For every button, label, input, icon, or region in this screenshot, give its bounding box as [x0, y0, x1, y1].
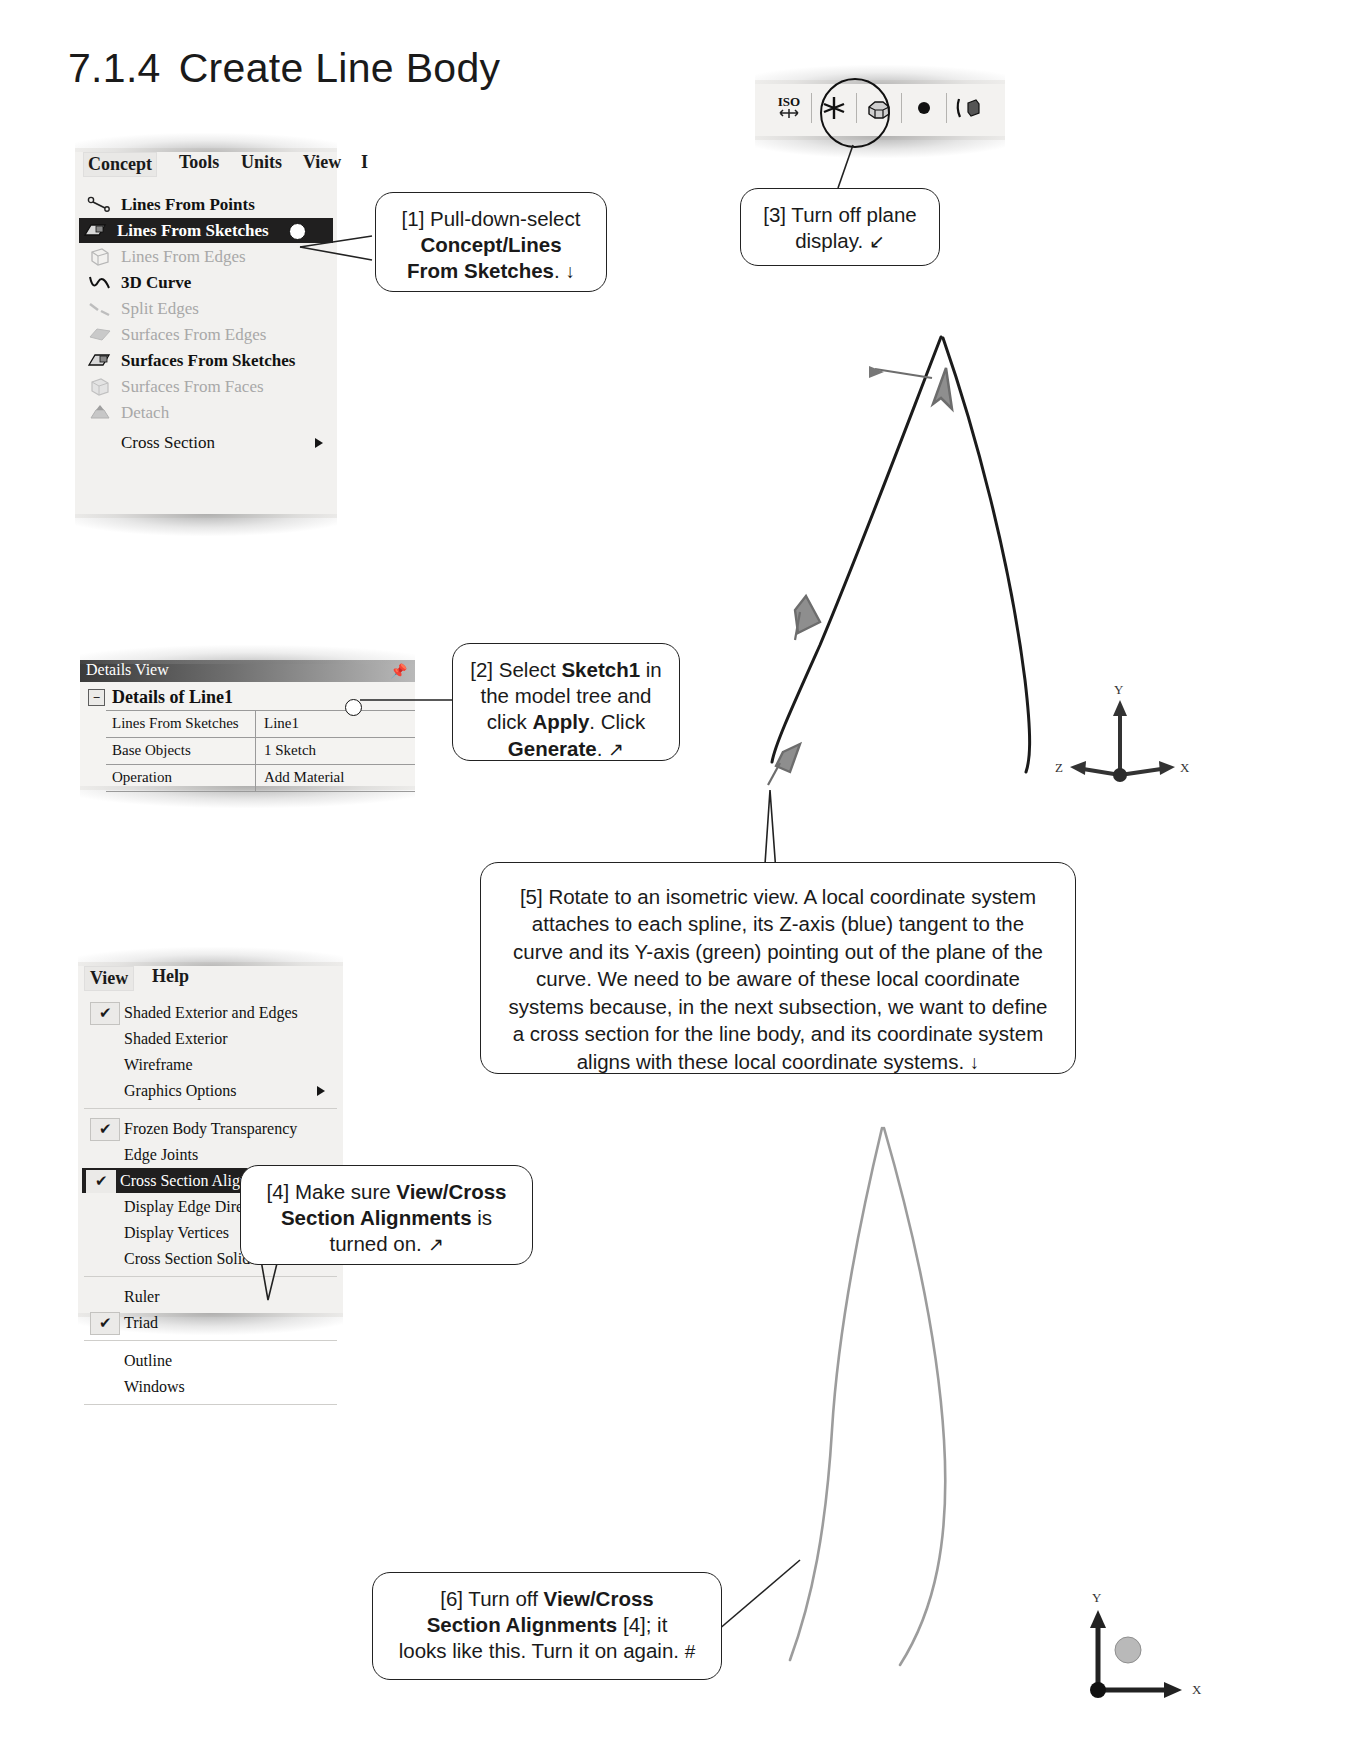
view-item-wireframe[interactable]: Wireframe: [86, 1052, 339, 1077]
toolbar-separator: [811, 93, 812, 123]
submenu-arrow-icon: [315, 438, 323, 448]
concept-menu-panel: Concept Tools Units View I Lines From Po…: [75, 148, 337, 518]
surfaces-from-sketches-icon: [87, 351, 113, 370]
checkmark-icon: ✔: [90, 1118, 120, 1141]
callout-6-arrow: #: [685, 1641, 696, 1662]
menu-item-surfaces-from-sketches[interactable]: Surfaces From Sketches: [83, 348, 333, 373]
menu-item-cross-section[interactable]: Cross Section: [83, 430, 333, 455]
view-item-outline[interactable]: Outline: [86, 1348, 339, 1373]
triad-top: [1070, 700, 1175, 782]
row-value[interactable]: 1 Sketch: [256, 738, 415, 764]
menu-help[interactable]: Help: [152, 966, 189, 987]
callout-2-l4b: Generate: [508, 737, 597, 760]
row-value[interactable]: Add Material: [256, 765, 415, 791]
details-header-label: Details of Line1: [112, 687, 233, 708]
page-title: 7.1.4Create Line Body: [68, 45, 500, 92]
callout-1-arrow: ↓: [565, 261, 575, 282]
menu-item-3d-curve[interactable]: 3D Curve: [83, 270, 333, 295]
callout-1-line2: Concept/Lines: [420, 233, 561, 256]
menu-item-label: Detach: [121, 403, 169, 423]
menu-view[interactable]: View: [84, 966, 134, 991]
view-item-triad[interactable]: ✔ Triad: [86, 1310, 339, 1335]
callout-4-line3: turned on.: [329, 1232, 421, 1255]
callout-2: [2] Select Sketch1 in the model tree and…: [452, 643, 680, 761]
menu-item-label: Lines From Edges: [121, 247, 246, 267]
view-menubar: View Help: [78, 962, 343, 992]
callout-6-l1b: View/Cross: [544, 1587, 654, 1610]
edges-icon: [954, 96, 984, 120]
menu-item-split-edges[interactable]: Split Edges: [83, 296, 333, 321]
menu-more[interactable]: I: [361, 152, 368, 173]
view-item-label: Edge Joints: [124, 1146, 198, 1164]
callout-5-arrow: ↓: [970, 1052, 980, 1073]
menu-divider: [84, 1276, 337, 1277]
callout-3: [3] Turn off plane display. ↙: [740, 188, 940, 266]
triad-label-x: X: [1180, 760, 1189, 776]
callout-1-line1: [1] Pull-down-select: [390, 206, 592, 232]
callout-6: [6] Turn off View/Cross Section Alignmen…: [372, 1572, 722, 1680]
callout-4: [4] Make sure View/Cross Section Alignme…: [240, 1165, 533, 1265]
callout-4-l2b: Section Alignments: [281, 1206, 472, 1229]
row-key: Base Objects: [106, 738, 256, 764]
triad-label-x: X: [1192, 1682, 1201, 1698]
view-item-shaded-exterior-and-edges[interactable]: ✔ Shaded Exterior and Edges: [86, 1000, 339, 1025]
menu-item-label: Cross Section: [121, 433, 215, 453]
details-header-row: − Details of Line1: [80, 684, 415, 710]
view-item-label: Wireframe: [124, 1056, 193, 1074]
callout-3-line1: [3] Turn off plane: [755, 202, 925, 228]
row-value[interactable]: Line1: [256, 711, 415, 737]
table-row[interactable]: Operation Add Material: [106, 765, 415, 792]
triad-bottom: [1090, 1610, 1182, 1698]
menu-item-surfaces-from-edges[interactable]: Surfaces From Edges: [83, 322, 333, 347]
surfaces-from-edges-icon: [87, 325, 113, 344]
toolbar-separator: [901, 93, 902, 123]
details-view-title: Details View: [86, 661, 169, 678]
callout2-anchor-ring: [345, 699, 362, 716]
callout-2-l3a: click: [487, 710, 533, 733]
menu-item-label: 3D Curve: [121, 273, 191, 293]
toolbar-highlight-circle: [820, 78, 890, 148]
callout-6-l2b: Section Alignments: [427, 1613, 618, 1636]
details-view-titlebar: Details View 📌: [80, 660, 415, 682]
view-item-graphics-options[interactable]: Graphics Options: [86, 1078, 339, 1103]
iso-view-button[interactable]: ISO: [769, 89, 809, 127]
callout-3-arrow: ↙: [869, 231, 885, 252]
menu-item-lines-from-edges[interactable]: Lines From Edges: [83, 244, 333, 269]
callout-2-l1b: Sketch1: [561, 658, 640, 681]
callout-6-line3: looks like this. Turn it on again.: [399, 1639, 679, 1662]
menu-tools[interactable]: Tools: [179, 152, 219, 173]
menu-item-label: Lines From Points: [121, 195, 255, 215]
view-item-edge-joints[interactable]: Edge Joints: [86, 1142, 339, 1167]
menu-item-surfaces-from-faces[interactable]: Surfaces From Faces: [83, 374, 333, 399]
view-item-frozen-body-transparency[interactable]: ✔ Frozen Body Transparency: [86, 1116, 339, 1141]
menu-units[interactable]: Units: [241, 152, 282, 173]
callout-5-text: [5] Rotate to an isometric view. A local…: [509, 885, 1048, 1073]
menu-item-label: Surfaces From Edges: [121, 325, 266, 345]
menu-view[interactable]: View: [303, 152, 341, 173]
display-points-button[interactable]: [904, 89, 944, 127]
view-item-windows[interactable]: Windows: [86, 1374, 339, 1399]
callout-4-l1b: View/Cross: [396, 1180, 506, 1203]
surfaces-from-faces-icon: [87, 377, 113, 396]
view-item-label: Cross Section Solids: [124, 1250, 256, 1268]
display-edges-button[interactable]: [949, 89, 989, 127]
menu-item-label: Surfaces From Faces: [121, 377, 264, 397]
callout-2-l1a: [2] Select: [470, 658, 561, 681]
menu-item-detach[interactable]: Detach: [83, 400, 333, 425]
view-item-shaded-exterior[interactable]: Shaded Exterior: [86, 1026, 339, 1051]
table-row[interactable]: Base Objects 1 Sketch: [106, 738, 415, 765]
collapse-expander[interactable]: −: [88, 689, 105, 706]
menu-divider: [84, 1340, 337, 1341]
checkmark-icon: ✔: [86, 1170, 116, 1193]
callout-3-line2: display.: [795, 229, 863, 252]
view-item-ruler[interactable]: Ruler: [86, 1284, 339, 1309]
lines-from-points-icon: [87, 195, 113, 214]
callout-2-line2: the model tree and: [467, 683, 665, 709]
menu-concept[interactable]: Concept: [83, 152, 157, 177]
callout-2-l4t: .: [597, 737, 603, 760]
menu-item-lines-from-points[interactable]: Lines From Points: [83, 192, 333, 217]
callout-2-l3b: Apply: [532, 710, 589, 733]
table-row[interactable]: Lines From Sketches Line1: [106, 711, 415, 738]
view-item-label: Triad: [124, 1314, 158, 1332]
pin-icon[interactable]: 📌: [390, 663, 407, 680]
